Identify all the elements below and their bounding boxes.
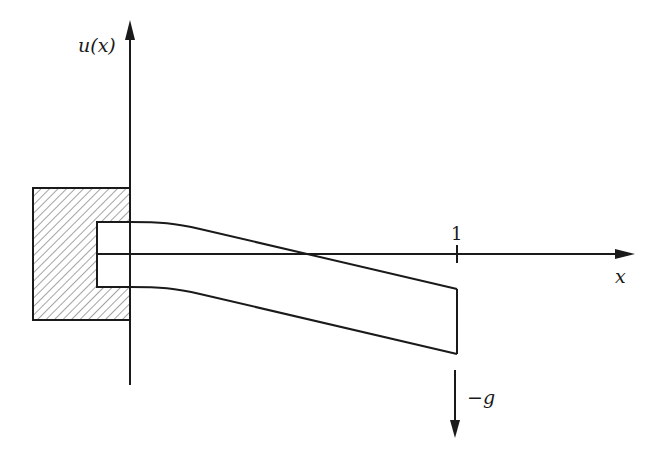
tick-one-label: 1 — [451, 223, 462, 244]
x-axis-label: x — [615, 265, 626, 287]
beam-top-edge — [130, 222, 457, 289]
load-label: −g — [467, 386, 495, 408]
y-axis-arrowhead-icon — [125, 20, 135, 40]
beam-bottom-edge — [130, 287, 457, 354]
beam — [130, 222, 457, 354]
down-arrow-icon — [450, 420, 460, 438]
x-axis — [97, 245, 635, 263]
y-axis-label: u(x) — [78, 34, 116, 56]
load-arrow — [450, 370, 460, 438]
x-axis-arrowhead-icon — [615, 249, 635, 259]
beam-diagram: u(x) x 1 −g — [0, 0, 661, 453]
